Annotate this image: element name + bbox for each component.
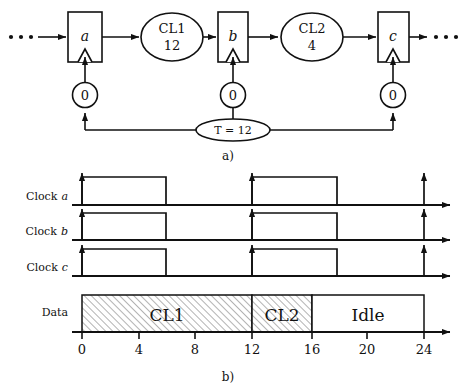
- row-clock-c-label-signal: c: [62, 261, 68, 274]
- register-a: a: [68, 12, 102, 62]
- row-clock-b-label-text: Clock: [26, 225, 58, 238]
- clock-source-label: T = 12: [214, 124, 252, 137]
- row-data-label: Data: [42, 306, 69, 319]
- register-a-label: a: [81, 28, 89, 44]
- panel-b-caption: b): [222, 370, 234, 384]
- data-segment-cl2-label: CL2: [264, 305, 299, 325]
- axis-tick-label: 0: [78, 342, 86, 357]
- axis-tick-labels: 0 4 8 12 16 20 24: [78, 342, 432, 357]
- axis-tick-label: 24: [416, 342, 433, 357]
- logic-block-cl1: CL1 12: [141, 13, 203, 61]
- row-clock-a-label-signal: a: [61, 190, 68, 203]
- panel-b-timing: Clocka Clockb: [26, 173, 450, 384]
- row-clock-b: Clockb: [26, 209, 450, 240]
- axis-tick-label: 16: [304, 342, 321, 357]
- data-segment-idle-label: Idle: [351, 305, 384, 325]
- register-c-label: c: [389, 28, 397, 44]
- clock-buffer-b-label: 0: [229, 88, 237, 103]
- logic-block-cl1-title: CL1: [159, 21, 186, 36]
- clock-buffer-c: 0: [381, 83, 406, 108]
- axis-tick-label: 4: [135, 342, 143, 357]
- axis-tick-label: 12: [244, 342, 261, 357]
- row-clock-a-label: Clocka: [26, 190, 68, 203]
- register-c: c: [378, 12, 409, 62]
- row-clock-c-label-text: Clock: [26, 261, 58, 274]
- figure-container: a CL1 12 b CL2 4: [0, 0, 464, 390]
- data-segment-cl1-label: CL1: [149, 305, 184, 325]
- logic-block-cl2-delay: 4: [308, 38, 316, 53]
- clock-buffer-a: 0: [73, 83, 98, 108]
- clock-buffer-c-label: 0: [389, 88, 397, 103]
- clock-buffer-a-label: 0: [81, 88, 89, 103]
- axis-ticks: [82, 332, 424, 339]
- panel-a-circuit: a CL1 12 b CL2 4: [9, 12, 458, 163]
- panel-a-caption: a): [222, 149, 234, 163]
- row-data: Data CL1 CL2 Idle: [42, 295, 450, 357]
- row-clock-a-label-text: Clock: [26, 190, 58, 203]
- left-ellipsis: [9, 35, 33, 39]
- clock-a-waveform: [82, 177, 424, 205]
- clock-source: T = 12: [196, 119, 270, 141]
- clock-b-waveform: [82, 213, 424, 240]
- row-clock-c-label: Clockc: [26, 261, 68, 274]
- register-b-label: b: [229, 28, 238, 44]
- clock-buffer-b: 0: [221, 83, 246, 108]
- right-ellipsis: [434, 35, 458, 39]
- logic-block-cl2-title: CL2: [299, 21, 326, 36]
- register-b: b: [218, 12, 248, 62]
- axis-tick-label: 8: [191, 342, 199, 357]
- axis-tick-label: 20: [359, 342, 376, 357]
- logic-block-cl1-delay: 12: [164, 38, 181, 53]
- figure-svg: a CL1 12 b CL2 4: [0, 0, 464, 390]
- row-clock-b-label-signal: b: [61, 225, 68, 238]
- row-clock-a: Clocka: [26, 173, 450, 205]
- clock-c-waveform: [82, 249, 424, 276]
- row-clock-c: Clockc: [26, 245, 450, 276]
- row-clock-b-label: Clockb: [26, 225, 68, 238]
- logic-block-cl2: CL2 4: [281, 13, 343, 61]
